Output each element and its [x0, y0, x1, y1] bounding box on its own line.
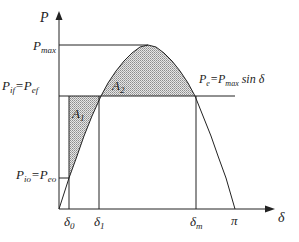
y-axis-label: P [39, 10, 49, 25]
p-final-label: Pif=Pef [1, 78, 40, 95]
p-initial-label: Pio=Peo [15, 167, 57, 184]
curve-equation-label: Pe=Pmax sin δ [198, 72, 265, 88]
y-axis-arrow-icon [56, 11, 63, 20]
pmax-label: Pmax [32, 38, 56, 55]
power-angle-diagram: P δ Pmax Pif=Pef Pio=Peo δ0 δ1 δm π A1 A… [0, 0, 299, 242]
pi-label: π [231, 213, 238, 228]
delta1-label: δ1 [94, 214, 105, 231]
deltam-label: δm [190, 214, 203, 231]
x-axis-arrow-icon [265, 206, 275, 213]
delta0-label: δ0 [64, 214, 75, 231]
x-axis-label: δ [278, 210, 285, 225]
